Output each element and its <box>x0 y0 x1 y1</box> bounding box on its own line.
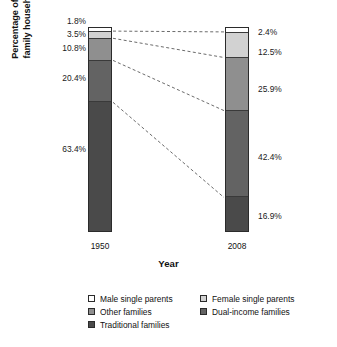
legend-label-female-single-parents: Female single parents <box>212 294 294 304</box>
legend-swatch-female-single-parents <box>200 295 207 302</box>
segment-traditional-families-2008[interactable] <box>226 197 248 231</box>
connector-lines <box>0 0 337 240</box>
legend-item-dual-income-families[interactable]: Dual-income families <box>200 307 328 317</box>
x-tick-1950: 1950 <box>80 241 120 251</box>
legend-label-traditional-families: Traditional families <box>100 320 170 330</box>
legend: Male single parents Other families Tradi… <box>88 292 328 331</box>
value-label-male-single-parents-2008: 2.4% <box>258 27 277 37</box>
segment-traditional-families-1950[interactable] <box>89 102 111 231</box>
connector-line-4 <box>113 102 224 197</box>
value-label-male-single-parents-1950: 1.8% <box>67 16 86 26</box>
value-label-traditional-families-2008: 16.9% <box>258 211 282 221</box>
legend-label-male-single-parents: Male single parents <box>100 294 173 304</box>
legend-item-female-single-parents[interactable]: Female single parents <box>200 294 328 304</box>
connector-line-3 <box>113 60 224 110</box>
legend-item-other-families[interactable]: Other families <box>88 307 200 317</box>
bar-2008[interactable] <box>225 27 249 232</box>
legend-item-traditional-families[interactable]: Traditional families <box>88 320 200 330</box>
value-label-other-families-2008: 25.9% <box>258 84 282 94</box>
connector-line-1 <box>113 31 224 32</box>
segment-dual-income-families-2008[interactable] <box>226 111 248 197</box>
value-label-other-families-1950: 10.8% <box>62 43 86 53</box>
legend-label-other-families: Other families <box>100 307 152 317</box>
legend-swatch-male-single-parents <box>88 295 95 302</box>
x-tick-2008: 2008 <box>217 241 257 251</box>
segment-female-single-parents-2008[interactable] <box>226 33 248 58</box>
value-label-traditional-families-1950: 63.4% <box>62 144 86 154</box>
segment-other-families-1950[interactable] <box>89 39 111 61</box>
connector-line-2 <box>113 38 224 57</box>
value-label-female-single-parents-1950: 3.5% <box>67 29 86 39</box>
segment-dual-income-families-1950[interactable] <box>89 61 111 102</box>
segment-other-families-2008[interactable] <box>226 58 248 111</box>
x-axis-title: Year <box>0 258 337 269</box>
legend-label-dual-income-families: Dual-income families <box>212 307 290 317</box>
legend-item-male-single-parents[interactable]: Male single parents <box>88 294 200 304</box>
plot-area: 1.8% 3.5% 10.8% 20.4% 63.4% 2.4% 12.5% 2… <box>0 0 337 240</box>
value-label-dual-income-families-1950: 20.4% <box>62 73 86 83</box>
stacked-bar-chart: Percentage of U.S. family households <box>0 0 337 347</box>
value-label-dual-income-families-2008: 42.4% <box>258 152 282 162</box>
legend-swatch-other-families <box>88 308 95 315</box>
bar-1950[interactable] <box>88 27 112 232</box>
value-label-female-single-parents-2008: 12.5% <box>258 47 282 57</box>
segment-female-single-parents-1950[interactable] <box>89 32 111 39</box>
legend-swatch-dual-income-families <box>200 308 207 315</box>
legend-swatch-traditional-families <box>88 321 95 328</box>
